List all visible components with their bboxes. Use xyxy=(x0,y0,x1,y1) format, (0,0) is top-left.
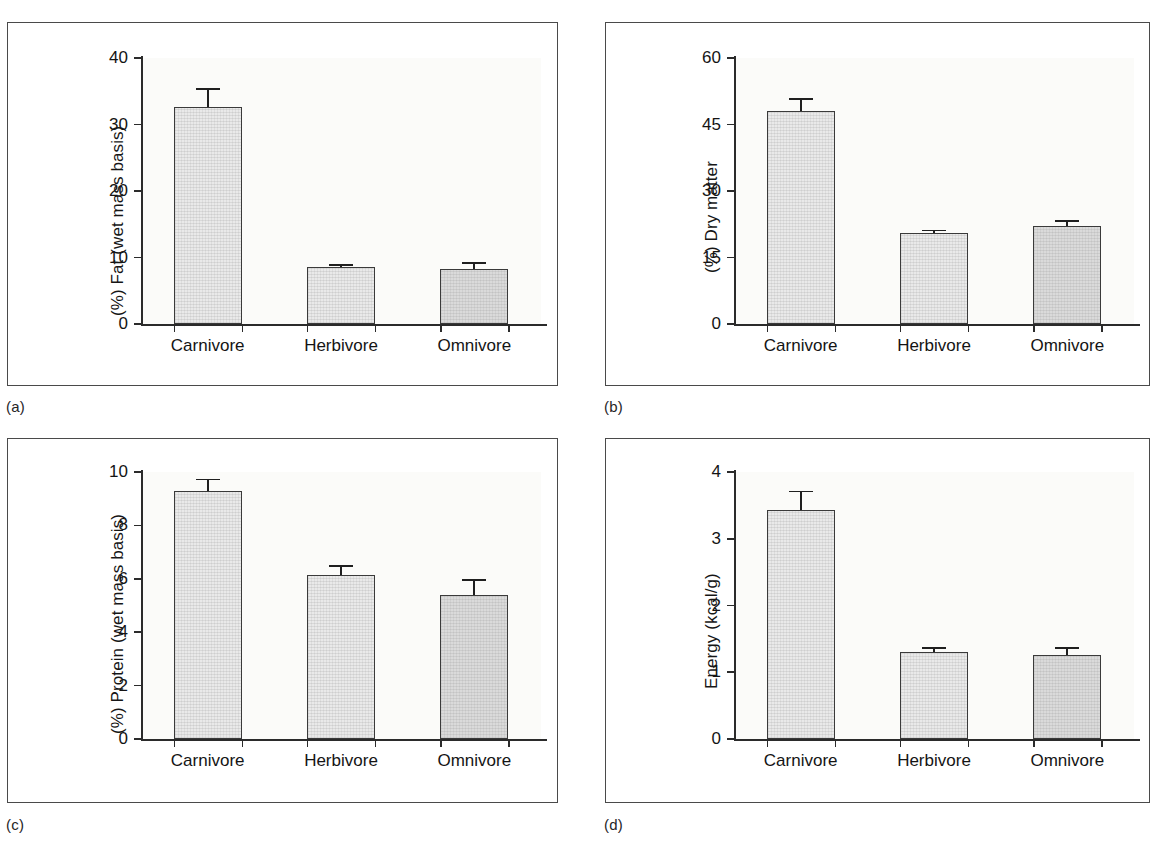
y-tick-mark xyxy=(134,257,141,259)
x-tick-mark xyxy=(440,741,441,747)
x-tick-mark xyxy=(968,326,969,332)
y-tick-label: 10 xyxy=(83,462,128,482)
y-axis-line xyxy=(734,56,736,325)
x-axis-label-carnivore: Carnivore xyxy=(138,336,278,356)
y-tick-mark xyxy=(727,257,734,259)
x-tick-mark xyxy=(375,741,376,747)
x-axis-label-herbivore: Herbivore xyxy=(271,336,411,356)
y-tick-mark xyxy=(134,471,141,473)
y-tick-label: 40 xyxy=(83,48,128,68)
y-tick-mark xyxy=(134,631,141,633)
x-tick-mark xyxy=(440,326,441,332)
x-tick-mark xyxy=(835,326,836,332)
y-tick-mark xyxy=(134,738,141,740)
x-tick-mark xyxy=(174,741,175,747)
error-bar-cap-herbivore xyxy=(922,647,946,649)
y-tick-mark xyxy=(134,124,141,126)
x-tick-mark xyxy=(307,326,308,332)
y-axis-title: (%) Fat (wet mass basis) xyxy=(108,126,128,316)
x-tick-mark xyxy=(900,326,901,332)
x-axis-line xyxy=(141,739,547,741)
error-bar-cap-herbivore xyxy=(922,230,946,232)
x-tick-mark xyxy=(307,741,308,747)
error-bar-stem-carnivore xyxy=(207,479,209,491)
x-tick-mark xyxy=(508,741,509,747)
y-tick-mark xyxy=(134,190,141,192)
panel-d: 01234CarnivoreHerbivoreOmnivoreEnergy (k… xyxy=(605,438,1150,803)
x-axis-label-carnivore: Carnivore xyxy=(731,336,871,356)
bar-herbivore xyxy=(307,575,375,739)
y-axis-line xyxy=(141,470,143,740)
y-tick-mark xyxy=(134,685,141,687)
y-tick-label: 45 xyxy=(676,115,721,135)
error-bar-stem-carnivore xyxy=(800,98,802,111)
y-axis-title: (%) Protein (wet mass basis) xyxy=(108,514,128,734)
y-tick-mark xyxy=(727,671,734,673)
x-tick-mark xyxy=(375,326,376,332)
x-tick-mark xyxy=(242,326,243,332)
y-axis-title: (%) Dry matter xyxy=(702,161,722,273)
panel-a: 010203040CarnivoreHerbivoreOmnivore(%) F… xyxy=(7,22,558,386)
x-axis-line xyxy=(734,739,1140,741)
x-tick-mark xyxy=(767,741,768,747)
y-tick-mark xyxy=(727,190,734,192)
y-tick-label: 3 xyxy=(676,529,721,549)
x-tick-mark xyxy=(508,326,509,332)
y-tick-mark xyxy=(727,323,734,325)
x-tick-mark xyxy=(968,741,969,747)
x-axis-line xyxy=(141,324,547,326)
y-tick-mark xyxy=(727,538,734,540)
panel-a-caption: (a) xyxy=(6,398,25,415)
x-tick-mark xyxy=(1101,741,1102,747)
bar-herbivore xyxy=(307,267,375,324)
x-axis-label-omnivore: Omnivore xyxy=(997,751,1137,771)
y-tick-mark xyxy=(727,471,734,473)
bar-omnivore xyxy=(1033,655,1101,739)
x-axis-label-carnivore: Carnivore xyxy=(138,751,278,771)
panel-d-caption: (d) xyxy=(604,816,623,833)
x-axis-label-herbivore: Herbivore xyxy=(864,751,1004,771)
bar-carnivore xyxy=(767,111,835,324)
chart-c-protein: 0246810CarnivoreHerbivoreOmnivore(%) Pro… xyxy=(8,439,557,802)
error-bar-cap-herbivore xyxy=(329,565,353,567)
y-tick-label: 60 xyxy=(676,48,721,68)
x-tick-mark xyxy=(900,741,901,747)
error-bar-cap-carnivore xyxy=(196,479,220,481)
y-axis-line xyxy=(141,56,143,325)
y-axis-line xyxy=(734,470,736,740)
bar-herbivore xyxy=(900,652,968,739)
y-tick-mark xyxy=(134,525,141,527)
x-axis-line xyxy=(734,324,1140,326)
x-axis-label-omnivore: Omnivore xyxy=(404,751,544,771)
x-axis-label-herbivore: Herbivore xyxy=(864,336,1004,356)
y-tick-mark xyxy=(727,57,734,59)
error-bar-cap-omnivore xyxy=(462,579,486,581)
x-tick-mark xyxy=(242,741,243,747)
y-tick-label: 4 xyxy=(676,462,721,482)
x-tick-mark xyxy=(174,326,175,332)
error-bar-cap-omnivore xyxy=(462,262,486,264)
bar-carnivore xyxy=(174,107,242,324)
error-bar-stem-carnivore xyxy=(207,88,209,107)
x-axis-label-carnivore: Carnivore xyxy=(731,751,871,771)
y-tick-label: 0 xyxy=(83,314,128,334)
error-bar-cap-omnivore xyxy=(1055,220,1079,222)
error-bar-cap-carnivore xyxy=(196,88,220,90)
y-axis-title: Energy (kcal/g) xyxy=(702,573,722,689)
x-axis-label-omnivore: Omnivore xyxy=(997,336,1137,356)
x-tick-mark xyxy=(1033,326,1034,332)
error-bar-cap-carnivore xyxy=(789,491,813,493)
y-tick-mark xyxy=(727,605,734,607)
bar-omnivore xyxy=(440,595,508,739)
panel-c: 0246810CarnivoreHerbivoreOmnivore(%) Pro… xyxy=(7,438,558,803)
bar-carnivore xyxy=(767,510,835,739)
x-axis-label-omnivore: Omnivore xyxy=(404,336,544,356)
error-bar-cap-carnivore xyxy=(789,98,813,100)
y-tick-mark xyxy=(134,578,141,580)
chart-d-energy: 01234CarnivoreHerbivoreOmnivoreEnergy (k… xyxy=(606,439,1149,802)
y-tick-mark xyxy=(134,323,141,325)
bar-carnivore xyxy=(174,491,242,739)
y-tick-label: 0 xyxy=(676,314,721,334)
y-tick-mark xyxy=(727,124,734,126)
